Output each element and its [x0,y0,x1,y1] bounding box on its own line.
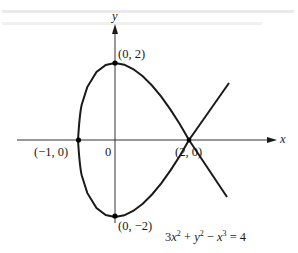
curve-loop-lower [78,140,189,217]
curve-tail-upper [189,83,229,140]
eq-plus: + [181,230,194,244]
y-axis-label: y [112,10,118,23]
eq-minus: − [204,230,217,244]
eq-equals: = 4 [227,230,247,244]
point-label-left: (−1, 0) [34,146,68,159]
curve-loop-upper [78,63,189,140]
point-top [112,60,117,65]
point-node [187,138,192,143]
x-axis-label: x [280,133,286,146]
x-axis-arrow-icon [267,137,277,143]
equation-label: 3x2 + y2 − x3 = 4 [165,230,246,244]
origin-label: 0 [105,146,111,159]
plot-canvas [0,0,298,253]
point-left [76,137,81,142]
curve-figure: y x 0 (0, 2) (−1, 0) (2, 0) (0, −2) 3x2 … [0,0,298,253]
point-bottom [112,213,117,218]
y-axis-arrow-icon [112,24,118,34]
point-label-top: (0, 2) [118,48,145,61]
point-label-bottom: (0, −2) [118,220,152,233]
point-label-node: (2, 0) [175,146,202,159]
